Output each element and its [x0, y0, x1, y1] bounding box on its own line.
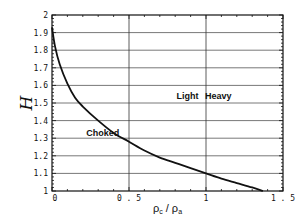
y-tick-label: 1.3 — [34, 134, 49, 143]
y-axis-label: H — [16, 94, 36, 111]
chart: 11.11.21.31.41.51.61.71.81.9200 . 511 . … — [0, 0, 306, 219]
gridlines — [52, 15, 283, 191]
y-tick-label: 1 — [43, 187, 48, 196]
y-tick-label: 1.1 — [34, 169, 49, 178]
y-tick-label: 1.6 — [34, 81, 49, 90]
y-tick-label: 1.7 — [34, 64, 49, 73]
annotation-light: Light — [177, 91, 199, 101]
y-tick-label: 2 — [43, 11, 48, 20]
y-tick-label: 1.2 — [34, 152, 49, 161]
data-curve — [52, 27, 263, 191]
annotation-heavy: Heavy — [205, 91, 232, 101]
annotation-choked: Choked — [86, 128, 119, 138]
y-tick-label: 1.9 — [34, 29, 49, 38]
x-tick-label: 1 — [204, 194, 209, 203]
x-tick-label: 0 . 5 — [117, 194, 141, 203]
x-tick-label: 0 — [53, 194, 58, 203]
x-axis-label: ρc / ρa — [153, 202, 182, 215]
y-tick-label: 1.8 — [34, 46, 49, 55]
y-tick-label: 1.4 — [34, 117, 49, 126]
x-tick-label: 1 . 5 — [271, 194, 295, 203]
